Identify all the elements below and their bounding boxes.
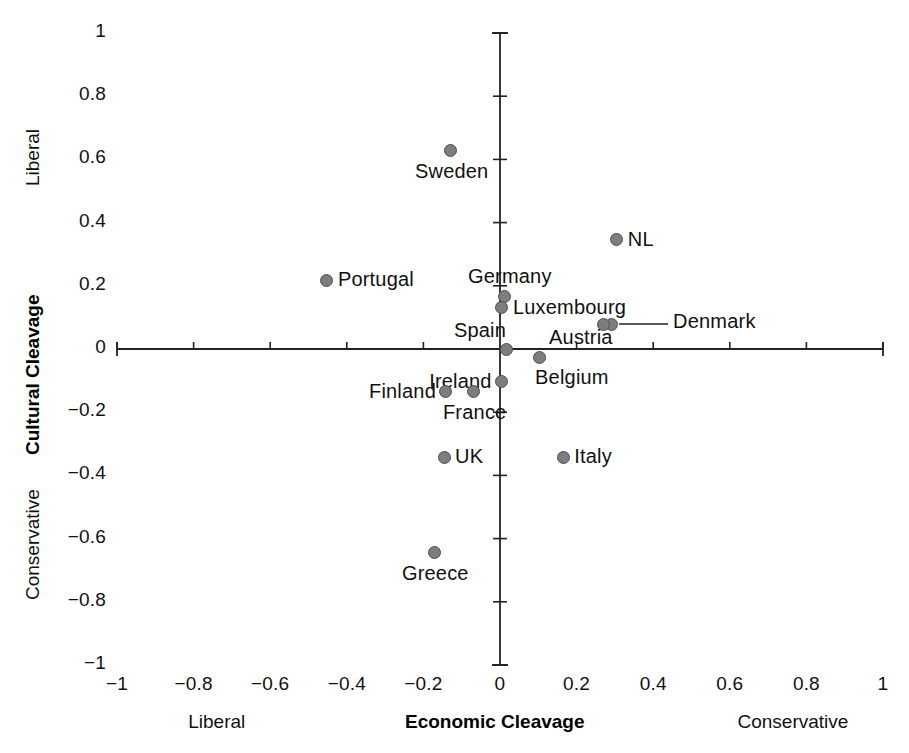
x-tick-label: −1 — [77, 673, 157, 695]
y-tick-label: −1 — [36, 652, 106, 674]
y-tick-label: 0.8 — [36, 83, 106, 105]
x-tick-label: −0.6 — [230, 673, 310, 695]
data-point-label: Luxembourg — [513, 296, 626, 319]
data-point-label: Austria — [549, 326, 613, 349]
y-tick-label: −0.8 — [36, 589, 106, 611]
data-point-label: Portugal — [338, 268, 414, 291]
scatter-plot: 10.80.60.40.20−0.2−0.4−0.6−0.8−1−1−0.8−0… — [0, 0, 909, 753]
y-tick-label: 0 — [36, 336, 106, 358]
x-tick-label: 1 — [843, 673, 909, 695]
x-axis-right-label: Conservative — [737, 711, 848, 733]
data-point-label: Denmark — [673, 310, 756, 333]
data-point-label: UK — [455, 445, 483, 468]
data-point-label: Greece — [402, 562, 469, 585]
x-tick-label: 0.2 — [537, 673, 617, 695]
y-axis-top-label: Liberal — [22, 129, 44, 186]
y-tick-label: 1 — [36, 20, 106, 42]
y-tick-label: −0.4 — [36, 462, 106, 484]
data-point-label: Germany — [468, 265, 552, 288]
data-point — [500, 343, 513, 356]
data-point-label: Sweden — [415, 160, 488, 183]
y-tick-label: −0.2 — [36, 399, 106, 421]
x-tick-label: −0.2 — [383, 673, 463, 695]
data-point — [533, 351, 546, 364]
x-tick-label: −0.4 — [307, 673, 387, 695]
y-tick-label: 0.2 — [36, 273, 106, 295]
y-tick-label: 0.6 — [36, 146, 106, 168]
data-point-label: NL — [628, 228, 654, 251]
data-point-label: France — [443, 401, 506, 424]
y-axis-title: Cultural Cleavage — [22, 295, 44, 456]
data-point — [495, 375, 508, 388]
x-axis-left-label: Liberal — [188, 711, 245, 733]
y-tick-label: −0.6 — [36, 526, 106, 548]
x-axis-title: Economic Cleavage — [405, 711, 585, 733]
data-point — [557, 451, 570, 464]
data-point — [438, 451, 451, 464]
data-point-label: Finland — [369, 380, 436, 403]
data-point-label: Belgium — [535, 366, 609, 389]
y-tick-label: 0.4 — [36, 210, 106, 232]
data-point-label: Italy — [574, 445, 612, 468]
data-point-label: Spain — [454, 319, 506, 342]
x-tick-label: 0.6 — [690, 673, 770, 695]
x-tick-label: −0.8 — [154, 673, 234, 695]
data-point — [320, 274, 333, 287]
x-tick-label: 0.4 — [613, 673, 693, 695]
x-tick-label: 0.8 — [766, 673, 846, 695]
y-axis-bottom-label: Conservative — [22, 489, 44, 600]
x-tick-label: 0 — [460, 673, 540, 695]
